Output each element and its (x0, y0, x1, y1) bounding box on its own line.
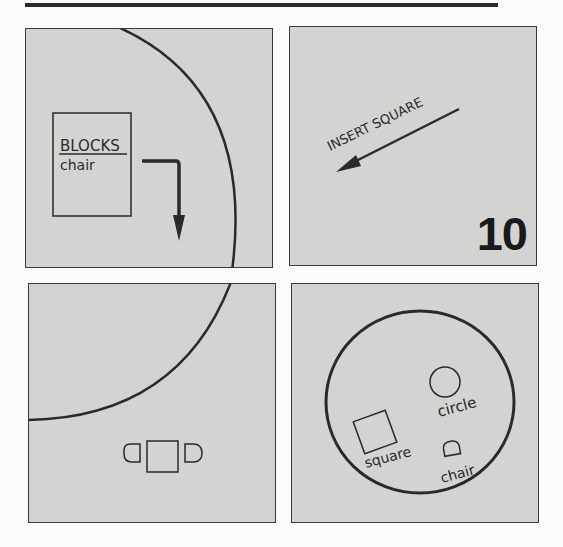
library-circle (326, 311, 514, 493)
arrow-head-icon (336, 155, 361, 172)
circle-block-icon[interactable] (430, 367, 460, 397)
chair-right-icon[interactable] (185, 444, 202, 462)
large-circle-arc (118, 29, 236, 268)
block-item-chair[interactable]: chair (60, 157, 95, 173)
label-square: square (363, 443, 413, 471)
chair-left-icon[interactable] (124, 444, 140, 462)
panel-blocks-dialog: BLOCKS chair (25, 28, 273, 268)
top-rule (25, 3, 498, 7)
blocks-title: BLOCKS (60, 137, 120, 155)
panel-insert-command: INSERT SQUARE 10 (289, 26, 537, 266)
large-circle-arc (29, 284, 231, 420)
table-square[interactable] (147, 441, 178, 472)
panel-block-library: square circle chair (291, 283, 539, 523)
chair-block-icon[interactable] (442, 440, 460, 457)
insert-square-command: INSERT SQUARE (325, 94, 425, 153)
label-chair: chair (439, 461, 477, 486)
arrow-head-icon (173, 215, 185, 241)
step-number: 10 (477, 210, 527, 257)
panel-table-chairs (28, 283, 276, 523)
bent-arrow-down-icon (142, 161, 179, 219)
